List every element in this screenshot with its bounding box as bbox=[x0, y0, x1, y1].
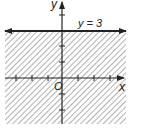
coordinate-plane bbox=[0, 0, 144, 133]
y-axis-label: y bbox=[51, 0, 57, 10]
origin-label: O bbox=[54, 81, 63, 92]
boundary-line-label: y = 3 bbox=[78, 18, 102, 29]
x-axis-label: x bbox=[119, 81, 125, 93]
